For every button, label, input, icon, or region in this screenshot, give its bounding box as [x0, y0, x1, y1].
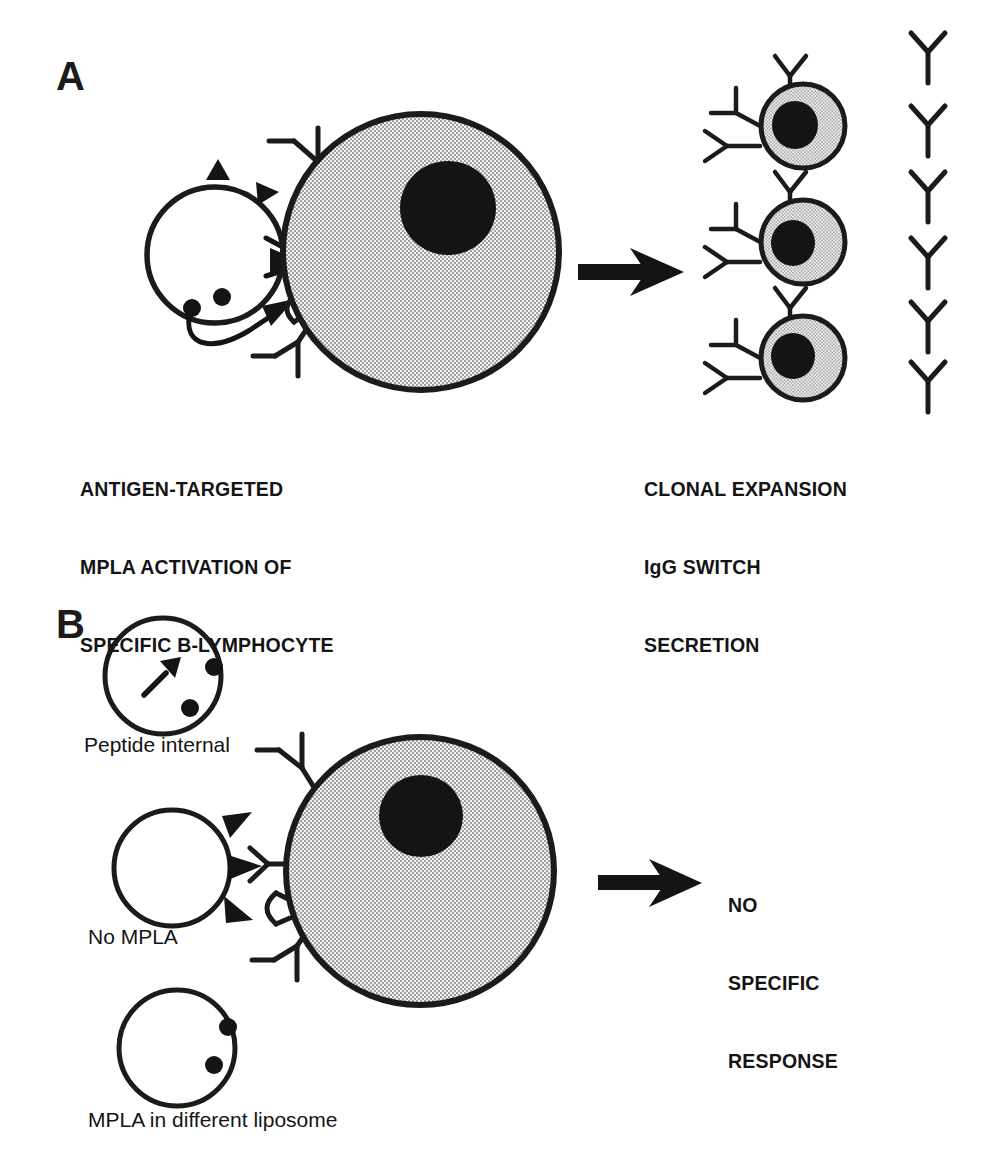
bcr-receptor: [253, 324, 310, 376]
panel-a-process-arrow: [578, 248, 684, 296]
plasma-cell: [705, 288, 845, 400]
panel-b-liposome-mpla-separate: [119, 990, 237, 1106]
secreted-antibody: [911, 362, 945, 412]
mpla-molecule-dot: [213, 288, 231, 306]
b-cell-membrane: [283, 114, 559, 390]
caption-line: SPECIFIC: [728, 970, 838, 996]
mpla-molecule-dot: [205, 1056, 223, 1074]
liposome-membrane: [114, 810, 230, 926]
label-no-mpla: No MPLA: [88, 925, 178, 949]
mpla-molecule-dot: [219, 1018, 237, 1036]
label-mpla-different-liposome: MPLA in different liposome: [88, 1108, 337, 1132]
caption-line: SPECIFIC B-LYMPHOCYTE: [80, 632, 334, 658]
plasma-cell-nucleus: [771, 220, 815, 266]
liposome-membrane: [119, 990, 235, 1106]
panel-a-b-lymphocyte: [253, 114, 559, 390]
caption-line: SECRETION: [644, 632, 847, 658]
plasma-cell: [705, 56, 845, 168]
caption-line: ANTIGEN-TARGETED: [80, 476, 334, 502]
figure-root: A ANTIGEN-TARGETED MPLA ACTIVATION OF SP…: [0, 0, 1004, 1168]
secreted-antibody: [911, 238, 945, 288]
secreted-antibody: [911, 33, 945, 83]
secreted-antibody: [911, 302, 945, 352]
panel-a-left-caption: ANTIGEN-TARGETED MPLA ACTIVATION OF SPEC…: [80, 424, 334, 710]
b-cell-nucleus: [379, 775, 463, 857]
panel-b-liposome-no-mpla: [114, 810, 262, 926]
panel-b-b-lymphocyte: [250, 734, 554, 1005]
plasma-cell-nucleus: [772, 101, 818, 149]
panel-b-process-arrow: [598, 859, 702, 907]
panel-b-letter: B: [56, 604, 85, 644]
bcr-receptor: [257, 734, 315, 789]
caption-line: IgG SWITCH: [644, 554, 847, 580]
caption-line: RESPONSE: [728, 1048, 838, 1074]
plasma-cell-nucleus: [771, 333, 815, 379]
antigen-peptide-triangle: [224, 896, 253, 923]
panel-a-liposome: [147, 159, 303, 344]
caption-line: NO: [728, 892, 838, 918]
caption-line: MPLA ACTIVATION OF: [80, 554, 334, 580]
antigen-peptide-triangle: [206, 159, 230, 180]
label-peptide-internal: Peptide internal: [84, 733, 230, 757]
b-cell-nucleus: [400, 161, 496, 255]
caption-line: CLONAL EXPANSION: [644, 476, 847, 502]
panel-b-right-caption: NO SPECIFIC RESPONSE: [728, 840, 838, 1126]
plasma-cell: [705, 172, 845, 284]
antigen-peptide-triangle: [256, 182, 279, 205]
panel-a-letter: A: [56, 56, 85, 96]
panel-a-right-caption: CLONAL EXPANSION IgG SWITCH SECRETION: [644, 424, 847, 710]
antigen-peptide-triangle: [222, 812, 252, 838]
secreted-antibody: [911, 106, 945, 156]
secreted-antibody: [911, 172, 945, 222]
